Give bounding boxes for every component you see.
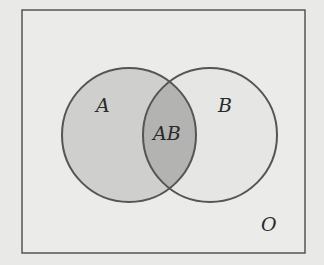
intersection-label: AB bbox=[151, 122, 181, 144]
venn-diagram: A B AB O bbox=[0, 0, 324, 265]
set-b-label: B bbox=[217, 94, 232, 116]
universe-label: O bbox=[261, 213, 277, 235]
set-a-label: A bbox=[94, 94, 110, 116]
